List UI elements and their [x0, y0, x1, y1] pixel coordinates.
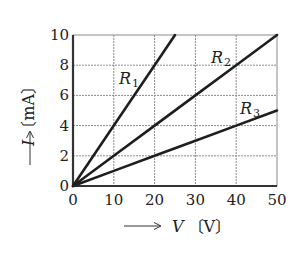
series-line-r1	[73, 35, 175, 186]
svg-text:I〔mA〕: I〔mA〕	[19, 78, 38, 147]
x-tick-label: 30	[186, 191, 205, 209]
iv-characteristic-chart: 01020304050 0246810 R1R2R3 I〔mA〕 V〔V〕	[0, 0, 302, 263]
y-tick-label: 2	[59, 147, 69, 165]
x-tick-label: 10	[104, 191, 123, 209]
x-axis-arrow-icon	[124, 223, 161, 230]
x-tick-label: 40	[227, 191, 246, 209]
y-axis-var: I	[19, 139, 38, 147]
y-tick-label: 8	[59, 56, 69, 74]
x-tick-label: 50	[267, 191, 286, 209]
y-axis-ticks: 0246810	[50, 26, 69, 195]
x-axis-var: V	[172, 217, 185, 236]
series-line-r3	[73, 111, 277, 187]
y-tick-label: 10	[50, 26, 69, 44]
y-axis-label: I〔mA〕	[19, 78, 38, 147]
x-tick-label: 20	[145, 191, 164, 209]
y-tick-label: 4	[59, 117, 69, 135]
series-label-r2: R2	[210, 48, 231, 69]
series-labels: R1R2R3	[118, 48, 260, 120]
y-axis-unit: 〔mA〕	[19, 78, 38, 137]
x-tick-label: 0	[68, 191, 78, 209]
y-tick-label: 0	[59, 177, 69, 195]
x-axis-label: V〔V〕	[172, 217, 231, 236]
series-label-r3: R3	[239, 99, 260, 120]
series-label-r1: R1	[118, 69, 139, 90]
x-axis-unit: 〔V〕	[188, 217, 232, 236]
x-axis-ticks: 01020304050	[68, 191, 286, 209]
y-axis-arrow-icon	[27, 131, 34, 165]
y-tick-label: 6	[59, 86, 69, 104]
